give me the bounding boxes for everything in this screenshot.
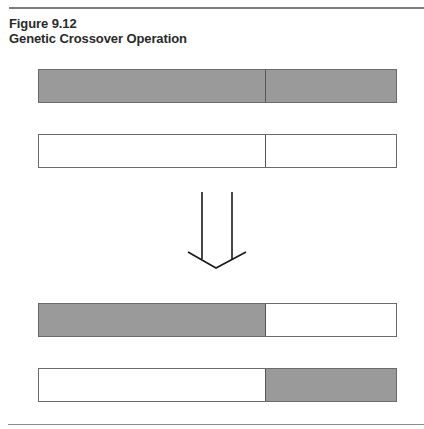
figure-caption: Figure 9.12 Genetic Crossover Operation [9,16,187,46]
parent-1-segment-a [39,70,266,102]
child-1-segment-b [266,304,396,336]
parent-2-segment-a [39,135,266,167]
parent-1-segment-b [266,70,396,102]
down-arrow-icon [180,185,260,280]
figure-number: Figure 9.12 [9,16,187,31]
top-rule [9,7,424,9]
child-chromosome-2 [38,368,397,402]
child-2-segment-a [39,369,266,401]
child-1-segment-a [39,304,266,336]
parent-chromosome-2 [38,134,397,168]
figure-title: Genetic Crossover Operation [9,31,187,46]
parent-chromosome-1 [38,69,397,103]
child-chromosome-1 [38,303,397,337]
child-2-segment-b [266,369,396,401]
parent-2-segment-b [266,135,396,167]
bottom-rule [8,424,424,425]
